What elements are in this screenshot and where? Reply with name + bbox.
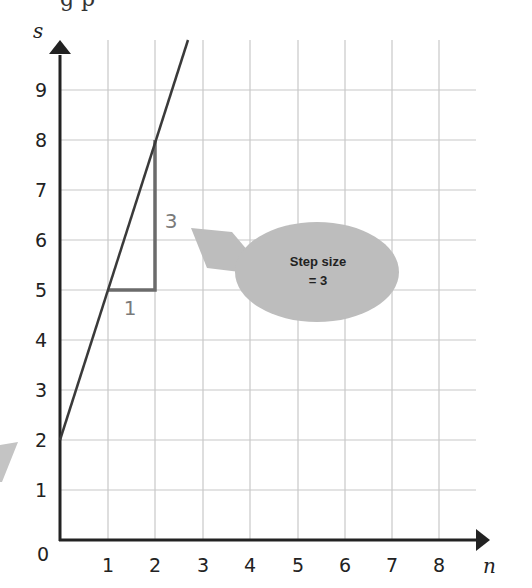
x-tick-7: 7 [386,554,398,576]
bubble-text-line2: = 3 [309,273,327,288]
cropped-heading-fragment: g p [60,0,95,11]
x-axis-arrow-icon [476,529,490,551]
x-tick-5: 5 [292,554,304,576]
x-tick-labels: 1 2 3 4 5 6 7 8 [102,554,445,576]
y-tick-8: 8 [35,129,47,151]
y-tick-7: 7 [35,179,47,201]
y-tick-3: 3 [35,379,47,401]
y-tick-1: 1 [35,479,47,501]
x-tick-2: 2 [149,554,161,576]
x-tick-3: 3 [197,554,209,576]
x-tick-1: 1 [102,554,114,576]
origin-label: 0 [37,543,49,565]
run-label: 1 [124,296,137,320]
y-tick-5: 5 [35,279,47,301]
x-tick-4: 4 [244,554,256,576]
step-size-bubble: Step size = 3 [191,222,399,322]
x-tick-6: 6 [339,554,351,576]
step-size-chart: g p s n 1 2 3 4 5 6 7 8 [0,0,532,588]
x-tick-8: 8 [433,554,445,576]
y-tick-labels: 1 2 3 4 5 6 7 8 9 [35,79,47,501]
bubble-text-line1: Step size [290,254,346,269]
rise-label: 3 [165,209,178,233]
cropped-bubble-pointer [0,442,18,482]
y-tick-2: 2 [35,429,47,451]
y-tick-9: 9 [35,79,47,101]
x-axis-label: n [483,554,496,578]
y-tick-4: 4 [35,329,47,351]
y-tick-6: 6 [35,229,47,251]
y-axis-arrow-icon [49,40,71,54]
y-axis-label: s [33,19,43,43]
